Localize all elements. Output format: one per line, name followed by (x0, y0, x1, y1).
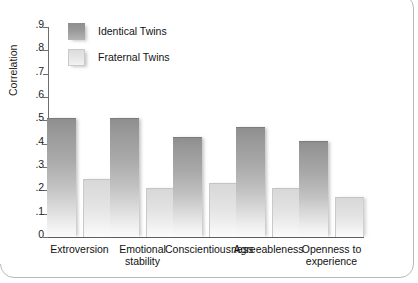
y-tick-label: .1 (35, 206, 44, 217)
y-tick-label: .4 (35, 136, 44, 147)
legend-item-fraternal: Fraternal Twins (68, 44, 170, 70)
bar (146, 188, 175, 237)
legend-label-identical: Identical Twins (98, 26, 167, 37)
bar (299, 141, 328, 237)
y-tick-label: .3 (35, 159, 44, 170)
y-tick-label: .7 (35, 66, 44, 77)
bar (209, 183, 238, 237)
y-tick-label: .9 (35, 19, 44, 30)
bar (173, 137, 202, 237)
bar (236, 127, 265, 237)
y-tick-label: .5 (35, 112, 44, 123)
bar (83, 179, 112, 237)
chart-legend: Identical Twins Fraternal Twins (68, 18, 170, 70)
legend-swatch-fraternal-icon (68, 49, 85, 66)
y-tick-label: .6 (35, 89, 44, 100)
frame-mask-left (0, 0, 4, 264)
frame-mask-top (0, 0, 360, 3)
legend-label-fraternal: Fraternal Twins (98, 52, 170, 63)
chart-figure: Correlation .9.8.7.6.5.4.3.2.10 Extrover… (0, 0, 418, 283)
y-tick-label: 0 (38, 229, 44, 240)
bar (272, 188, 301, 237)
bar (47, 118, 76, 237)
bar (335, 197, 364, 237)
x-category-label: Openness to experience (291, 243, 372, 267)
bar (110, 118, 139, 237)
y-tick-label: .2 (35, 182, 44, 193)
legend-swatch-identical-icon (68, 23, 85, 40)
y-axis-title: Correlation (8, 45, 19, 96)
legend-item-identical: Identical Twins (68, 18, 170, 44)
y-tick-label: .8 (35, 42, 44, 53)
x-axis-line (48, 237, 364, 238)
